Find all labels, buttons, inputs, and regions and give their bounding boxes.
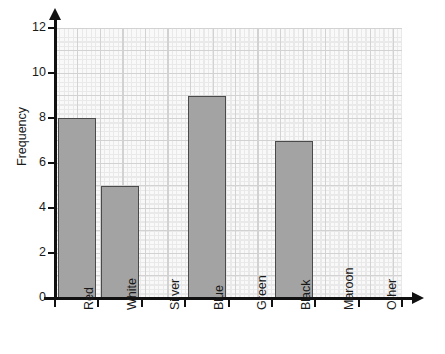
y-axis-title: Frequency: [16, 107, 29, 166]
x-axis-tick: [184, 299, 186, 307]
y-axis-tick-label: 12: [32, 21, 46, 34]
y-axis-tick: [48, 207, 55, 209]
y-axis-arrow-icon: [49, 8, 61, 20]
y-axis-tick: [48, 252, 55, 254]
x-axis-label-green: Green: [256, 275, 269, 310]
y-axis-tick-label: 10: [32, 66, 46, 79]
y-axis-tick: [48, 27, 55, 29]
x-axis-tick: [141, 299, 143, 307]
x-axis-label-maroon: Maroon: [343, 268, 356, 310]
y-axis-tick-label: 6: [39, 156, 46, 169]
bar-chart: 024681012 RedWhiteSilverBlueGreenBlackMa…: [0, 0, 445, 354]
x-axis-label-blue: Blue: [213, 285, 226, 310]
bars-layer: [55, 28, 402, 298]
bar-black: [275, 141, 313, 299]
y-axis-tick-label: 2: [39, 246, 46, 259]
x-axis-label-other: Other: [386, 279, 399, 310]
y-axis-tick-label: 8: [39, 111, 46, 124]
y-axis-tick-label: 0: [39, 291, 46, 304]
y-axis-tick: [48, 162, 55, 164]
x-axis-label-black: Black: [300, 279, 313, 310]
y-axis-line: [54, 18, 57, 299]
y-axis-tick: [48, 117, 55, 119]
x-axis-tick: [54, 299, 56, 307]
bar-blue: [188, 96, 226, 299]
y-axis-tick-label: 4: [39, 201, 46, 214]
bar-red: [58, 118, 96, 298]
x-axis-label-white: White: [126, 278, 139, 310]
x-axis-tick: [271, 299, 273, 307]
x-axis-tick: [228, 299, 230, 307]
x-axis-label-red: Red: [83, 287, 96, 310]
x-axis-arrow-icon: [412, 292, 424, 304]
x-axis-tick: [314, 299, 316, 307]
y-axis-tick: [48, 72, 55, 74]
x-axis-tick: [401, 299, 403, 307]
x-axis-label-silver: Silver: [169, 279, 182, 310]
x-axis-tick: [97, 299, 99, 307]
x-axis-tick: [358, 299, 360, 307]
